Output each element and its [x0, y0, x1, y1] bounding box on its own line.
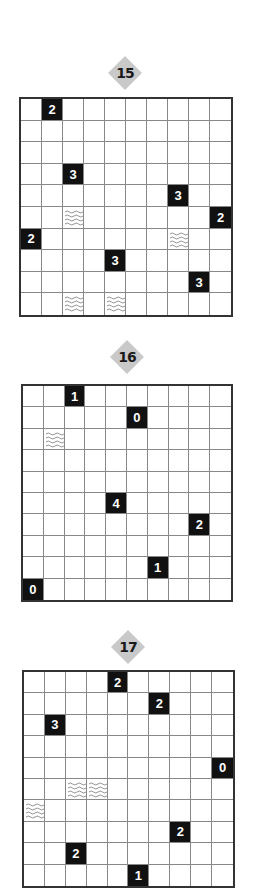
grid-cell[interactable] — [149, 758, 170, 779]
grid-cell[interactable] — [189, 493, 210, 514]
grid-cell[interactable] — [189, 579, 210, 600]
grid-cell[interactable] — [85, 579, 106, 600]
grid-cell[interactable] — [210, 293, 231, 315]
grid-cell[interactable] — [105, 185, 126, 207]
grid-cell[interactable] — [149, 715, 170, 736]
grid-cell[interactable] — [170, 758, 191, 779]
grid-cell[interactable] — [63, 272, 84, 294]
grid-cell[interactable] — [106, 450, 127, 471]
grid-cell[interactable] — [148, 579, 169, 600]
grid-cell[interactable] — [23, 450, 44, 471]
grid-cell[interactable] — [147, 142, 168, 164]
grid-cell[interactable] — [126, 121, 147, 143]
grid-cell[interactable] — [84, 293, 105, 315]
grid-cell[interactable] — [66, 758, 87, 779]
grid-cell[interactable] — [148, 386, 169, 407]
grid-cell[interactable] — [108, 800, 129, 821]
grid-cell[interactable] — [189, 207, 210, 229]
grid-cell[interactable] — [108, 822, 129, 843]
grid-cell[interactable] — [169, 579, 190, 600]
grid-cell[interactable] — [189, 472, 210, 493]
grid-cell[interactable] — [191, 758, 212, 779]
grid-cell[interactable] — [170, 800, 191, 821]
grid-cell[interactable] — [191, 672, 212, 693]
grid-cell[interactable] — [168, 207, 189, 229]
grid-cell[interactable] — [191, 715, 212, 736]
grid-cell[interactable] — [170, 865, 191, 886]
grid-cell[interactable] — [66, 693, 87, 714]
grid-cell[interactable] — [189, 536, 210, 557]
grid-cell[interactable] — [169, 429, 190, 450]
grid-cell[interactable] — [128, 758, 149, 779]
grid-cell[interactable] — [87, 822, 108, 843]
grid-cell[interactable] — [212, 865, 233, 886]
grid-cell[interactable] — [23, 536, 44, 557]
grid-cell[interactable] — [106, 386, 127, 407]
grid-cell[interactable] — [148, 536, 169, 557]
grid-cell[interactable] — [66, 800, 87, 821]
grid-cell[interactable] — [148, 407, 169, 428]
grid-cell[interactable] — [189, 121, 210, 143]
grid-cell[interactable] — [24, 715, 45, 736]
grid-cell[interactable] — [24, 736, 45, 757]
grid-cell[interactable] — [168, 121, 189, 143]
grid-cell[interactable] — [147, 293, 168, 315]
grid-cell[interactable] — [42, 229, 63, 251]
grid-cell[interactable] — [191, 800, 212, 821]
grid-cell[interactable] — [106, 557, 127, 578]
grid-cell[interactable] — [108, 715, 129, 736]
grid-cell[interactable] — [128, 672, 149, 693]
grid-cell[interactable] — [21, 250, 42, 272]
grid-cell[interactable] — [128, 736, 149, 757]
grid-cell[interactable] — [108, 693, 129, 714]
grid-cell[interactable] — [84, 250, 105, 272]
grid-cell[interactable] — [127, 493, 148, 514]
grid-cell[interactable] — [84, 229, 105, 251]
grid-cell[interactable] — [126, 250, 147, 272]
grid-cell[interactable] — [63, 99, 84, 121]
grid-cell[interactable] — [45, 779, 66, 800]
grid-cell[interactable] — [44, 472, 65, 493]
grid-cell[interactable] — [42, 121, 63, 143]
grid-cell[interactable] — [87, 715, 108, 736]
grid-cell[interactable] — [106, 514, 127, 535]
grid-cell[interactable] — [147, 250, 168, 272]
grid-cell[interactable] — [149, 736, 170, 757]
grid-cell[interactable] — [210, 142, 231, 164]
grid-cell[interactable] — [63, 229, 84, 251]
grid-cell[interactable] — [149, 800, 170, 821]
grid-cell[interactable] — [23, 429, 44, 450]
grid-cell[interactable] — [108, 736, 129, 757]
grid-cell[interactable] — [189, 185, 210, 207]
grid-cell[interactable] — [84, 207, 105, 229]
grid-cell[interactable] — [108, 843, 129, 864]
grid-cell[interactable] — [42, 293, 63, 315]
grid-cell[interactable] — [105, 99, 126, 121]
grid-cell[interactable] — [149, 672, 170, 693]
grid-cell[interactable] — [191, 843, 212, 864]
grid-cell[interactable] — [85, 557, 106, 578]
grid-cell[interactable] — [105, 229, 126, 251]
grid-cell[interactable] — [191, 779, 212, 800]
grid-cell[interactable] — [85, 429, 106, 450]
grid-cell[interactable] — [84, 142, 105, 164]
grid-cell[interactable] — [65, 579, 86, 600]
grid-cell[interactable] — [128, 715, 149, 736]
grid-cell[interactable] — [169, 386, 190, 407]
grid-cell[interactable] — [21, 272, 42, 294]
grid-cell[interactable] — [21, 99, 42, 121]
grid-cell[interactable] — [126, 272, 147, 294]
grid-cell[interactable] — [63, 185, 84, 207]
grid-cell[interactable] — [24, 843, 45, 864]
grid-cell[interactable] — [84, 164, 105, 186]
grid-cell[interactable] — [128, 822, 149, 843]
grid-cell[interactable] — [65, 450, 86, 471]
grid-cell[interactable] — [128, 693, 149, 714]
grid-cell[interactable] — [44, 493, 65, 514]
grid-cell[interactable] — [170, 736, 191, 757]
grid-cell[interactable] — [128, 843, 149, 864]
grid-cell[interactable] — [66, 715, 87, 736]
grid-cell[interactable] — [65, 493, 86, 514]
grid-cell[interactable] — [210, 536, 231, 557]
grid-cell[interactable] — [127, 450, 148, 471]
